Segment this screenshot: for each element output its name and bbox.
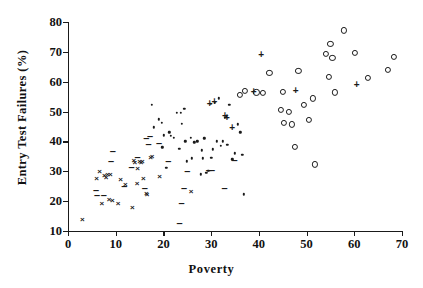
y-axis-tick-label: 60 <box>50 76 63 89</box>
data-point-dot <box>216 140 218 142</box>
data-point-dash: – <box>181 183 187 194</box>
data-point-cross: × <box>135 165 140 173</box>
y-axis-tick-label: 20 <box>50 195 63 208</box>
y-axis-tick <box>63 171 68 172</box>
data-point-dash: – <box>209 165 215 176</box>
x-axis-tick <box>211 231 212 236</box>
data-point-dash: – <box>177 217 183 228</box>
y-axis-tick <box>63 22 68 23</box>
data-point-plus: + <box>258 50 264 60</box>
data-point-circle <box>310 95 316 101</box>
y-axis-tick <box>63 52 68 53</box>
data-point-dash: – <box>143 132 149 143</box>
data-point-cross: × <box>150 153 155 161</box>
data-point-dot <box>176 112 178 114</box>
data-point-cross: × <box>189 188 194 196</box>
x-axis-tick-label: 70 <box>396 238 409 251</box>
y-axis-tick-labels: 1020304050607080 <box>36 22 62 231</box>
y-axis-tick-label: 40 <box>50 135 63 148</box>
data-point-circle <box>281 120 287 126</box>
data-point-circle <box>341 27 347 33</box>
data-point-dot <box>191 157 193 159</box>
x-axis-tick <box>116 231 117 236</box>
data-point-dot <box>196 140 198 142</box>
data-point-cross: × <box>108 171 113 179</box>
data-point-dot <box>165 166 167 168</box>
data-point-dot <box>169 135 171 137</box>
data-point-circle <box>352 50 358 56</box>
data-point-dash: – <box>94 189 100 200</box>
x-axis-tick-label: 50 <box>300 238 313 251</box>
data-point-dot <box>160 121 162 123</box>
x-axis-tick-labels: 010203040506070 <box>68 238 402 254</box>
data-point-dot <box>151 104 153 106</box>
data-point-dot <box>239 131 241 133</box>
data-point-plus: + <box>354 80 360 90</box>
data-point-dot <box>203 137 205 139</box>
x-axis-tick <box>68 231 69 236</box>
x-axis-tick-label: 0 <box>65 238 71 251</box>
data-point-circle <box>278 107 284 113</box>
x-axis-tick <box>163 231 164 236</box>
x-axis-line <box>68 231 402 232</box>
data-point-circle <box>385 67 391 73</box>
data-point-dot <box>179 112 181 114</box>
data-point-dot <box>202 157 204 159</box>
data-point-circle <box>260 90 266 96</box>
data-point-dash: – <box>101 190 107 201</box>
y-axis-tick <box>63 201 68 202</box>
y-axis-tick <box>63 141 68 142</box>
data-point-dot <box>190 136 192 138</box>
data-point-dot <box>241 154 243 156</box>
data-point-dot <box>163 134 165 136</box>
x-axis-tick-label: 60 <box>348 238 361 251</box>
data-point-circle <box>312 161 318 167</box>
data-point-dot <box>228 104 230 106</box>
data-point-dot <box>186 160 188 162</box>
y-axis-line <box>68 22 69 231</box>
y-axis-tick-label: 70 <box>50 46 63 59</box>
data-point-circle <box>266 70 272 76</box>
x-axis-tick-label: 10 <box>109 238 122 251</box>
data-point-dot <box>237 123 239 125</box>
data-point-dash: – <box>108 155 114 166</box>
x-axis-tick <box>259 231 260 236</box>
data-point-circle <box>327 41 333 47</box>
data-point-circle <box>306 117 312 123</box>
data-point-dot <box>161 146 163 148</box>
data-point-dash: – <box>178 197 184 208</box>
y-axis-tick <box>63 82 68 83</box>
data-point-circle <box>242 88 248 94</box>
data-point-dot <box>218 97 220 99</box>
data-point-dot <box>199 173 201 175</box>
data-point-dot <box>184 140 186 142</box>
data-point-circle <box>325 74 331 80</box>
data-point-circle <box>289 121 295 127</box>
data-point-dot <box>210 157 212 159</box>
y-axis-tick-label: 10 <box>50 225 63 238</box>
data-point-dot <box>173 137 175 139</box>
data-point-circle <box>301 102 307 108</box>
data-point-dot <box>222 140 224 142</box>
data-point-circle <box>295 68 301 74</box>
scatter-plot-area: ×××××××××××××××××××××××××××××–––––––––––… <box>68 22 402 231</box>
data-point-dot <box>183 107 185 109</box>
data-point-dash: – <box>165 155 171 166</box>
data-point-circle <box>323 51 329 57</box>
x-axis-tick <box>307 231 308 236</box>
chart-page: ×××××××××××××××××××××××××××××–––––––––––… <box>0 0 423 288</box>
data-point-cross: × <box>94 175 99 183</box>
data-point-dot <box>211 148 213 150</box>
x-axis-tick-label: 20 <box>157 238 170 251</box>
x-axis-title: Poverty <box>0 262 423 277</box>
x-axis-tick-label: 30 <box>205 238 218 251</box>
data-point-cross: × <box>135 180 140 188</box>
data-point-circle <box>286 109 292 115</box>
y-axis-title: Entry Test Failures (%) <box>15 8 30 228</box>
data-point-circle <box>292 144 298 150</box>
data-point-dot <box>153 126 155 128</box>
data-point-circle <box>365 75 371 81</box>
y-axis-tick-label: 50 <box>50 106 63 119</box>
data-point-cross: × <box>140 158 145 166</box>
data-point-cross: × <box>157 173 162 181</box>
